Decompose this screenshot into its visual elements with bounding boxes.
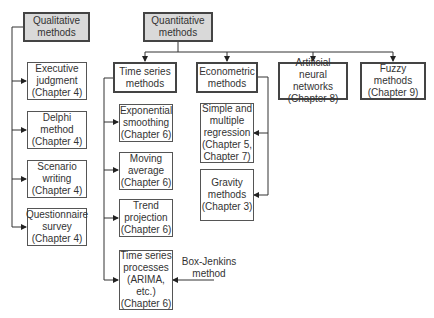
moving-average-box: Moving average (Chapter 6) bbox=[119, 152, 173, 190]
executive-judgment-box: Executive judgment (Chapter 4) bbox=[27, 62, 87, 100]
box-jenkins-label: Box-Jenkins method bbox=[178, 256, 240, 280]
fuzzy-methods-box: Fuzzy methods (Chapter 9) bbox=[360, 62, 426, 100]
qualitative-methods-box: Qualitative methods bbox=[23, 12, 90, 42]
artificial-neural-networks-box: Artificial neural networks (Chapter 8) bbox=[278, 62, 348, 100]
quantitative-methods-box: Quantitative methods bbox=[143, 12, 213, 42]
trend-projection-box: Trend projection (Chapter 6) bbox=[119, 199, 173, 237]
econometric-methods-box: Econometric methods bbox=[196, 62, 258, 93]
delphi-method-box: Delphi method (Chapter 4) bbox=[27, 111, 87, 149]
scenario-writing-box: Scenario writing (Chapter 4) bbox=[27, 160, 87, 198]
time-series-methods-box: Time series methods bbox=[113, 62, 177, 93]
questionnaire-survey-box: Questionnaire survey (Chapter 4) bbox=[27, 208, 87, 246]
qualitative-spine bbox=[12, 27, 23, 227]
time-series-spine bbox=[104, 78, 113, 280]
regression-box: Simple and multiple regression (Chapter … bbox=[200, 103, 254, 163]
exponential-smoothing-box: Exponential smoothing (Chapter 6) bbox=[119, 104, 173, 142]
time-series-processes-box: Time series processes (ARIMA, etc.) (Cha… bbox=[119, 250, 173, 310]
gravity-methods-box: Gravity methods (Chapter 3) bbox=[200, 169, 254, 221]
econometric-spine bbox=[258, 77, 268, 195]
